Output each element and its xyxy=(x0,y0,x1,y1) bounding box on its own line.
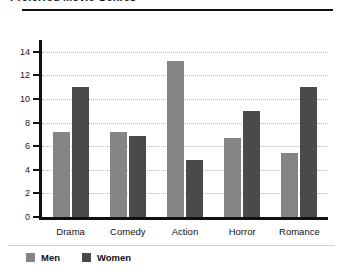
x-axis-label-comedy: Comedy xyxy=(99,226,156,237)
chart-title: Preferred Movie Genres xyxy=(10,0,136,3)
bar-action-women xyxy=(186,160,203,217)
x-axis-label-horror: Horror xyxy=(214,226,271,237)
bar-comedy-men xyxy=(110,132,127,217)
y-axis-label: 4 xyxy=(0,165,30,175)
plot-area xyxy=(0,38,343,224)
y-axis-label: 0 xyxy=(0,212,30,222)
legend-swatch-men xyxy=(26,253,35,262)
x-axis-labels: DramaComedyActionHorrorRomance xyxy=(42,226,328,240)
bar-comedy-women xyxy=(129,136,146,217)
bar-drama-women xyxy=(72,87,89,217)
bar-romance-women xyxy=(300,87,317,217)
bar-romance-men xyxy=(281,153,298,217)
legend-swatch-women xyxy=(82,253,91,262)
legend-label-women: Women xyxy=(97,252,131,263)
y-axis-label: 12 xyxy=(0,70,30,80)
bar-action-men xyxy=(167,61,184,217)
x-axis-line xyxy=(39,217,328,220)
x-axis-label-action: Action xyxy=(156,226,213,237)
bar-horror-men xyxy=(224,138,241,217)
legend-label-men: Men xyxy=(41,252,60,263)
y-axis-label: 10 xyxy=(0,94,30,104)
footer-divider xyxy=(8,245,335,246)
legend-item-women[interactable]: Women xyxy=(82,252,131,263)
chart-legend: MenWomen xyxy=(26,252,131,263)
bar-drama-men xyxy=(53,132,70,217)
title-divider xyxy=(22,9,333,11)
x-axis-label-drama: Drama xyxy=(42,226,99,237)
y-axis-label: 6 xyxy=(0,141,30,151)
bar-horror-women xyxy=(243,111,260,217)
y-axis-label: 2 xyxy=(0,188,30,198)
x-axis-label-romance: Romance xyxy=(271,226,328,237)
y-axis-label: 8 xyxy=(0,118,30,128)
legend-item-men[interactable]: Men xyxy=(26,252,60,263)
y-axis-label: 14 xyxy=(0,47,30,57)
bars-layer xyxy=(42,40,328,217)
